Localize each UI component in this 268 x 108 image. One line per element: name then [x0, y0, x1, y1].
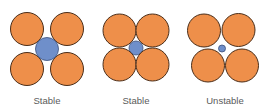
ion-packing-diagram: Stable Stable Unstable — [0, 0, 268, 108]
large-ion-circle — [192, 49, 225, 82]
panel-label: Stable — [34, 95, 61, 106]
panel-label: Unstable — [206, 95, 244, 106]
large-ion-circle — [51, 13, 84, 46]
panel-stable-fitting-cation: Stable — [103, 14, 169, 106]
small-ion-circle — [219, 45, 226, 52]
large-ion-circle — [188, 14, 221, 47]
large-ion-circle — [11, 13, 44, 46]
panel-stable-large-cation: Stable — [11, 13, 84, 107]
large-ion-circle — [11, 53, 44, 86]
small-ion-circle — [36, 38, 59, 61]
large-ion-circle — [136, 48, 169, 81]
large-ion-circle — [222, 14, 255, 47]
large-ion-circle — [103, 14, 136, 47]
panel-unstable-small-cation: Unstable — [188, 14, 259, 107]
large-ion-circle — [103, 48, 136, 81]
large-ion-circle — [226, 49, 259, 82]
panel-label: Stable — [123, 95, 150, 106]
large-ion-circle — [51, 53, 84, 86]
large-ion-circle — [136, 14, 169, 47]
